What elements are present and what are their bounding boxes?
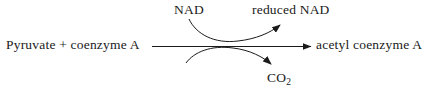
substrate-label: Pyruvate + coenzyme A (6, 38, 140, 52)
reaction-diagram: Pyruvate + coenzyme A acetyl coenzyme A … (0, 0, 434, 89)
byproduct-release-arrow (186, 47, 271, 64)
byproduct-formula: CO (267, 70, 286, 85)
cofactor-in-label: NAD (174, 3, 204, 17)
byproduct-label: CO2 (267, 71, 291, 85)
byproduct-subscript: 2 (286, 77, 291, 87)
product-label: acetyl coenzyme A (316, 38, 422, 52)
cofactor-out-label: reduced NAD (252, 3, 330, 17)
cofactor-conversion-arrow (189, 19, 280, 42)
